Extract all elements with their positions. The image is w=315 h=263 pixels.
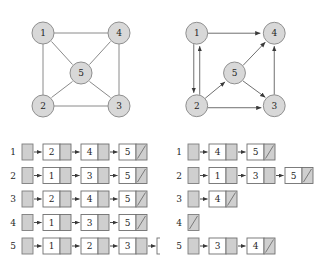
list-node-2-2-pointer-cell[interactable] — [264, 168, 275, 184]
list-node-1-1-value-label: 4 — [215, 147, 221, 157]
digraph-node-1-label: 1 — [194, 28, 200, 38]
list-node-3-3-value-label: 5 — [125, 194, 131, 204]
array-slot-1[interactable] — [22, 144, 33, 160]
array-slot-2[interactable] — [22, 168, 33, 184]
list-row-index-2: 2 — [176, 171, 182, 181]
graph-node-1-label: 1 — [40, 28, 46, 38]
list-node-2-1-value-label: 1 — [215, 171, 221, 181]
directed-graph-svg: 1 2 3 4 5 — [157, 0, 314, 132]
list-row-index-5: 5 — [10, 241, 16, 251]
list-row-index-3: 3 — [10, 194, 16, 204]
list-node-1-2-value-label: 5 — [253, 147, 259, 157]
list-node-1-2-pointer-cell[interactable] — [98, 144, 109, 160]
list-node-1-1-pointer-cell[interactable] — [60, 144, 71, 160]
directed-graph-panel: 1 2 3 4 5 — [157, 0, 314, 132]
graph-node-3-label: 3 — [116, 101, 122, 111]
list-row-index-1: 1 — [10, 147, 16, 157]
list-node-4-2-value-label: 3 — [87, 218, 93, 228]
list-node-5-2-value-label: 4 — [253, 241, 259, 251]
edge-5-to-4 — [243, 42, 265, 65]
list-node-1-2-value-label: 4 — [87, 147, 93, 157]
list-node-1-1-pointer-cell[interactable] — [226, 144, 237, 160]
list-node-2-2-pointer-cell[interactable] — [98, 168, 109, 184]
list-node-5-1-pointer-cell[interactable] — [226, 238, 237, 254]
list-row-index-4: 4 — [10, 218, 16, 228]
array-slot-1[interactable] — [188, 144, 199, 160]
list-node-3-1-value-label: 4 — [215, 194, 221, 204]
list-node-5-1-value-label: 3 — [215, 241, 221, 251]
figure-root: 1 2 3 4 5 — [0, 0, 315, 263]
list-node-3-2-value-label: 4 — [87, 194, 93, 204]
list-node-3-1-value-label: 2 — [49, 194, 55, 204]
list-node-3-1-pointer-cell[interactable] — [60, 191, 71, 207]
digraph-node-5-label: 5 — [232, 68, 238, 78]
list-node-5-3-value-label: 3 — [125, 241, 131, 251]
edge-2-to-5 — [205, 82, 225, 98]
array-slot-2[interactable] — [188, 168, 199, 184]
graph-node-4-label: 4 — [116, 28, 122, 38]
list-node-3-2-pointer-cell[interactable] — [98, 191, 109, 207]
edge-1-5 — [52, 42, 73, 65]
list-node-4-1-pointer-cell[interactable] — [60, 215, 71, 231]
directed-graph-vertices: 1 2 3 4 5 — [186, 22, 285, 116]
list-node-2-1-value-label: 1 — [49, 171, 55, 181]
directed-adjacency-list-svg: 1452135344534 — [160, 132, 315, 263]
list-row-index-5: 5 — [176, 241, 182, 251]
list-node-5-1-value-label: 1 — [49, 241, 55, 251]
list-node-5-2-value-label: 2 — [87, 241, 93, 251]
digraph-node-4-label: 4 — [271, 28, 277, 38]
graph-node-5-label: 5 — [78, 68, 84, 78]
list-node-4-2-pointer-cell[interactable] — [98, 215, 109, 231]
list-row-index-3: 3 — [176, 194, 182, 204]
list-node-1-3-value-label: 5 — [125, 147, 131, 157]
edge-3-5 — [90, 82, 111, 98]
list-row-index-2: 2 — [10, 171, 16, 181]
edge-2-5 — [52, 82, 73, 98]
list-node-2-2-value-label: 3 — [87, 171, 93, 181]
list-node-5-3-pointer-cell[interactable] — [136, 238, 147, 254]
digraph-node-2-label: 2 — [194, 101, 200, 111]
array-slot-5[interactable] — [22, 238, 33, 254]
digraph-node-3-label: 3 — [271, 101, 277, 111]
list-node-2-1-pointer-cell[interactable] — [60, 168, 71, 184]
undirected-graph-vertices: 1 2 3 4 5 — [32, 22, 130, 117]
list-node-5-2-pointer-cell[interactable] — [98, 238, 109, 254]
list-node-2-1-pointer-cell[interactable] — [226, 168, 237, 184]
list-node-1-1-value-label: 2 — [49, 147, 55, 157]
list-node-5-1-pointer-cell[interactable] — [60, 238, 71, 254]
undirected-adjacency-list-svg: 124521353245413551234 — [0, 132, 160, 263]
array-slot-3[interactable] — [22, 191, 33, 207]
graph-node-2-label: 2 — [40, 101, 46, 111]
list-node-4-1-value-label: 1 — [49, 218, 55, 228]
undirected-graph-panel: 1 2 3 4 5 — [0, 0, 157, 132]
edge-5-to-3 — [243, 81, 265, 97]
array-slot-3[interactable] — [188, 191, 199, 207]
list-node-2-3-value-label: 5 — [291, 171, 297, 181]
list-node-2-3-value-label: 5 — [125, 171, 131, 181]
array-slot-4[interactable] — [22, 215, 33, 231]
directed-adjacency-list-panel: 1452135344534 — [160, 132, 315, 263]
list-row-index-4: 4 — [176, 218, 182, 228]
undirected-adjacency-list-panel: 124521353245413551234 — [0, 132, 160, 263]
list-row-index-1: 1 — [176, 147, 182, 157]
undirected-graph-svg: 1 2 3 4 5 — [0, 0, 157, 132]
list-node-4-3-value-label: 5 — [125, 218, 131, 228]
edge-4-5 — [90, 42, 111, 65]
array-slot-5[interactable] — [188, 238, 199, 254]
list-node-2-2-value-label: 3 — [253, 171, 259, 181]
